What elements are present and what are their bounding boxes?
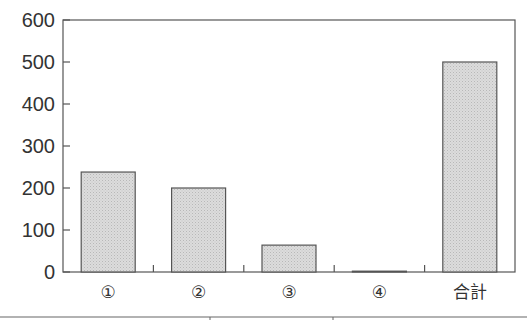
y-tick-label: 500 — [22, 51, 55, 73]
y-tick-label: 200 — [22, 177, 55, 199]
x-category-label: ② — [191, 283, 206, 302]
bar-1 — [81, 172, 135, 272]
bar-5 — [443, 62, 497, 272]
x-category-label: 合計 — [453, 283, 487, 302]
y-tick-label: 100 — [22, 219, 55, 241]
bars — [81, 62, 497, 272]
y-tick-label: 300 — [22, 135, 55, 157]
bar-chart: 0100200300400500600 ①②③④合計 — [0, 0, 527, 320]
y-tick-label: 0 — [44, 261, 55, 283]
bar-4 — [352, 271, 406, 272]
bar-2 — [172, 188, 226, 272]
x-category-label: ① — [101, 283, 116, 302]
x-category-label: ③ — [281, 283, 296, 302]
bar-3 — [262, 245, 316, 272]
y-tick-label: 400 — [22, 93, 55, 115]
x-category-label: ④ — [372, 283, 387, 302]
y-tick-label: 600 — [22, 9, 55, 31]
